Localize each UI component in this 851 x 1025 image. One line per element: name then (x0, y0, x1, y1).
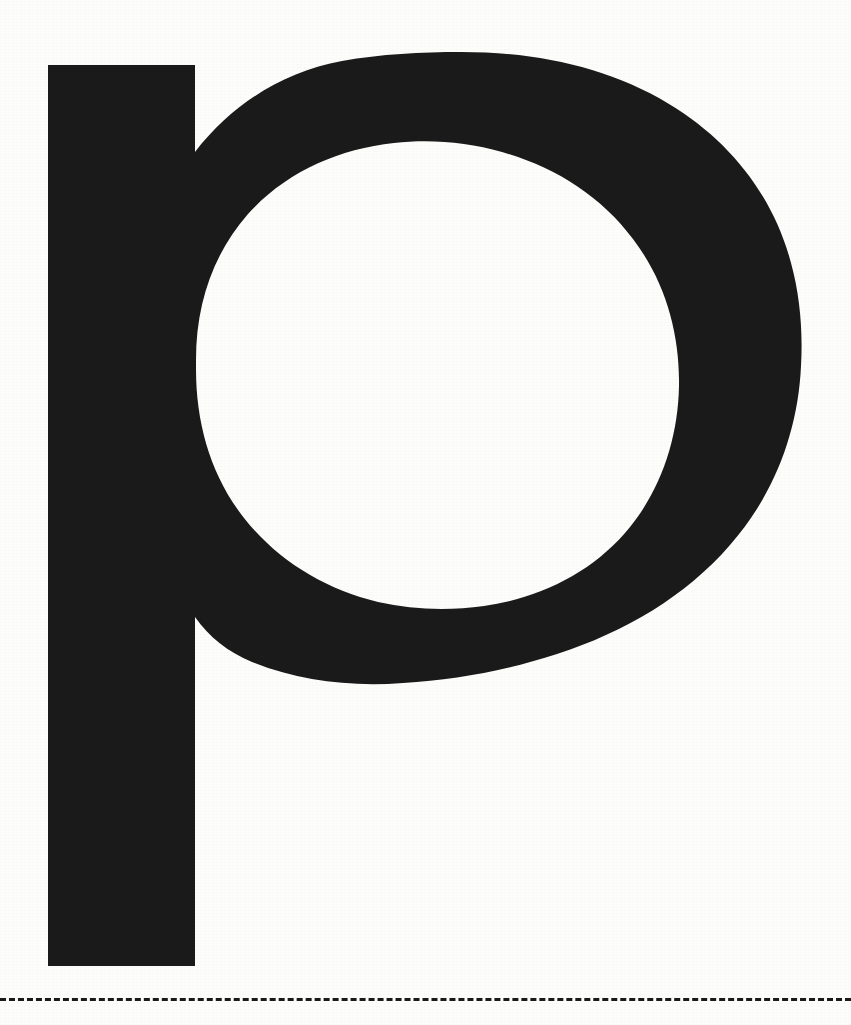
specimen-page (0, 0, 851, 1025)
trim-dashed-rule (0, 998, 851, 1001)
glyph-canvas (0, 0, 851, 1025)
letter-p-glyph (0, 0, 851, 1025)
